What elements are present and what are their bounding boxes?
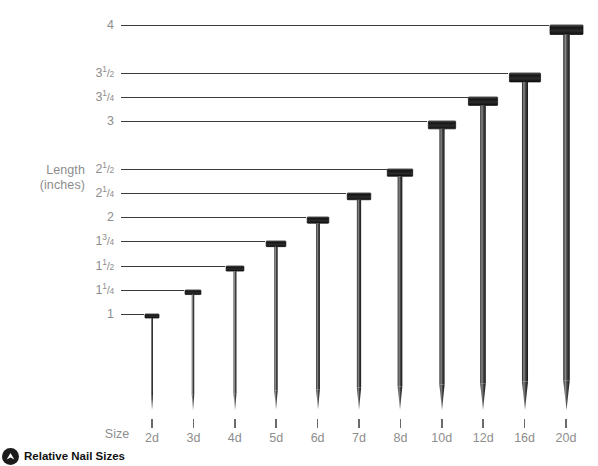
- x-tick-label-12d: 12d: [461, 432, 505, 445]
- x-tick-label-5d: 5d: [254, 432, 298, 445]
- nail-16d: [506, 72, 544, 414]
- nail-8d: [384, 168, 416, 413]
- leader-line: [121, 121, 427, 122]
- nail-4d: [223, 265, 247, 414]
- x-tick-mark: [441, 419, 443, 428]
- x-axis-title: Size: [92, 428, 142, 441]
- leader-line: [121, 73, 508, 74]
- x-tick-mark: [234, 419, 236, 428]
- leader-line: [121, 290, 184, 291]
- x-tick-mark: [400, 419, 402, 428]
- leader-line: [121, 25, 549, 26]
- leader-line: [121, 169, 387, 170]
- y-tick-label: 4: [40, 19, 114, 32]
- x-tick-mark: [275, 419, 277, 428]
- x-tick-mark: [317, 419, 319, 428]
- nail-5d: [263, 240, 289, 413]
- y-tick-label: 31/4: [40, 91, 114, 104]
- x-tick-mark: [151, 419, 153, 428]
- footer-branding: Relative Nail Sizes: [2, 446, 125, 466]
- nail-3d: [182, 289, 204, 414]
- leader-line: [121, 193, 346, 194]
- y-tick-label: 3: [40, 115, 114, 128]
- y-tick-label: 11/2: [40, 260, 114, 273]
- y-tick-label: 31/2: [40, 67, 114, 80]
- x-tick-label-8d: 8d: [378, 432, 422, 445]
- x-tick-label-4d: 4d: [213, 432, 257, 445]
- leader-line: [121, 97, 468, 98]
- nail-20d: [547, 24, 586, 414]
- x-tick-label-7d: 7d: [337, 432, 381, 445]
- x-tick-mark: [193, 419, 195, 428]
- y-tick-label: 21/4: [40, 187, 114, 200]
- leader-line: [121, 266, 225, 267]
- circle-chevron-logo-icon: [2, 448, 19, 465]
- nail-10d: [425, 120, 459, 413]
- footer-caption: Relative Nail Sizes: [24, 450, 125, 462]
- x-tick-mark: [524, 419, 526, 428]
- y-tick-label: 21/2: [40, 163, 114, 176]
- nail-12d: [465, 96, 501, 413]
- nail-6d: [304, 216, 332, 413]
- y-tick-label: 1: [40, 308, 114, 321]
- nail-2d: [142, 313, 162, 414]
- nail-7d: [344, 192, 374, 413]
- x-tick-mark: [482, 419, 484, 428]
- leader-line: [121, 314, 144, 315]
- x-tick-label-3d: 3d: [171, 432, 215, 445]
- x-tick-mark: [565, 419, 567, 428]
- y-tick-label: 13/4: [40, 235, 114, 248]
- leader-line: [121, 217, 306, 218]
- leader-line: [121, 241, 265, 242]
- x-tick-label-20d: 20d: [544, 432, 588, 445]
- x-tick-label-10d: 10d: [420, 432, 464, 445]
- x-tick-label-6d: 6d: [296, 432, 340, 445]
- y-tick-label: 2: [40, 211, 114, 224]
- x-tick-mark: [358, 419, 360, 428]
- x-tick-label-16d: 16d: [503, 432, 547, 445]
- y-tick-label: 11/4: [40, 284, 114, 297]
